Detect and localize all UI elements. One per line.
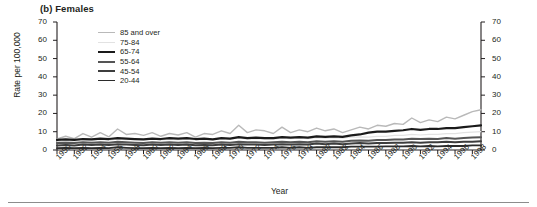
series-line	[57, 145, 481, 148]
series-line	[57, 132, 481, 142]
footer-divider	[8, 202, 529, 203]
figure-panel-b-females: (b) Females Rate per 100,000 Year 85 and…	[0, 0, 537, 207]
plot-area	[0, 0, 537, 207]
